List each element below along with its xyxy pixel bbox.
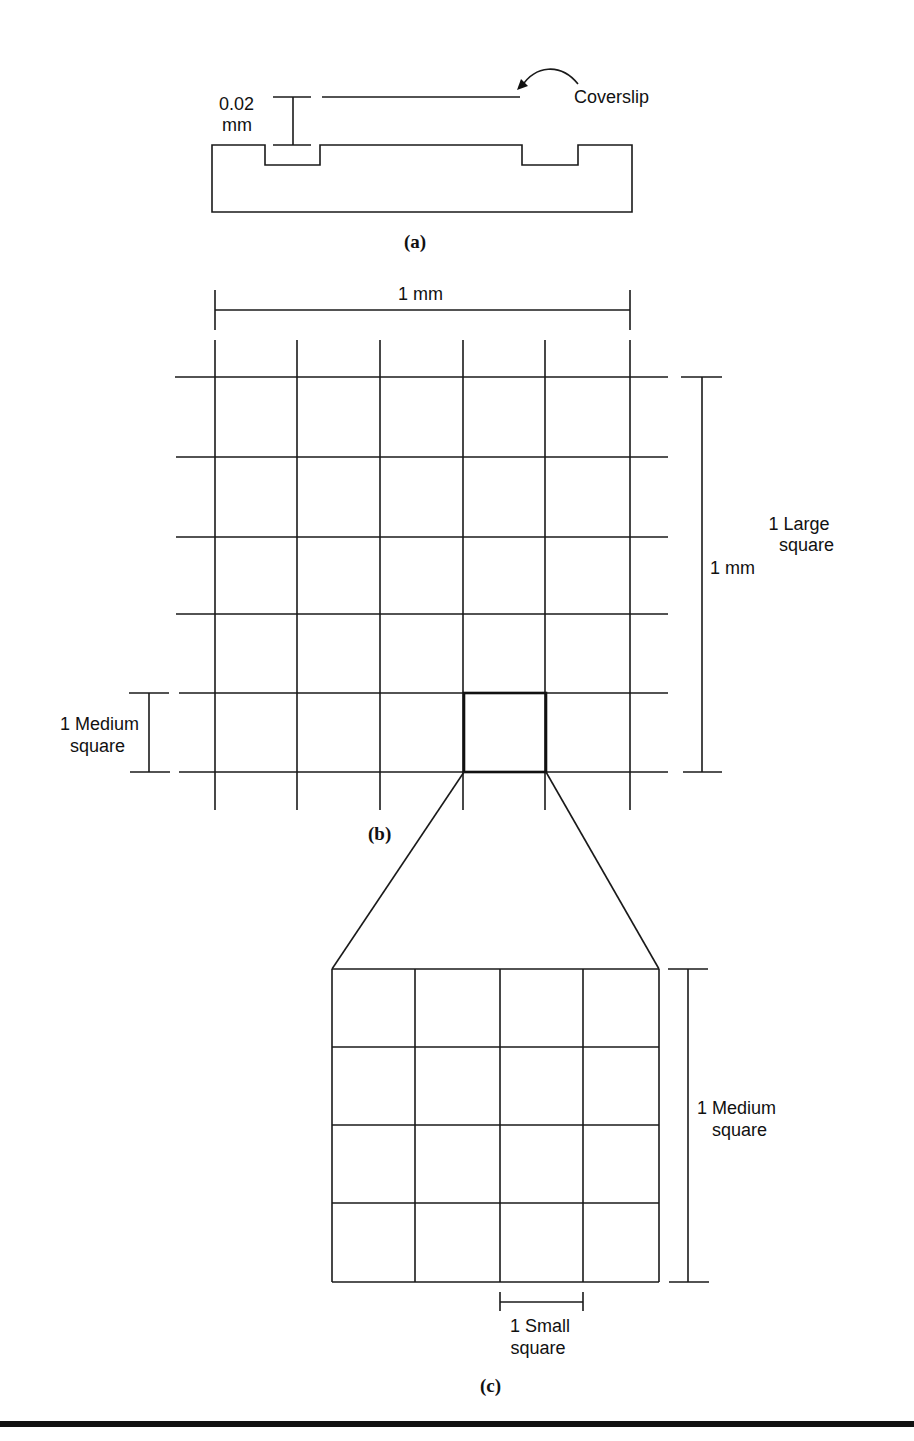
c-medium-square-label-1: 1 Medium [697, 1098, 776, 1118]
panel-b-large-square: 1 mm 1 mm 1 Large square [60, 284, 834, 845]
coverslip-label: Coverslip [574, 87, 649, 107]
hemocytometer-diagram: 0.02 mm Coverslip (a) 1 mm [0, 0, 914, 1441]
grid-b-vertical-lines [215, 340, 630, 810]
large-square-label-2: square [779, 535, 834, 555]
zoom-connector-lines [332, 772, 659, 969]
depth-unit: mm [222, 115, 252, 135]
panel-b-label: (b) [368, 823, 391, 845]
width-dim-label: 1 mm [398, 284, 443, 304]
height-dim-label: 1 mm [710, 558, 755, 578]
coverslip-arrow-icon [522, 69, 578, 86]
medium-square-label-1: 1 Medium [60, 714, 139, 734]
grid-b-horizontal-lines [175, 377, 668, 772]
large-square-label-1: 1 Large [768, 514, 829, 534]
caption-divider [0, 1421, 914, 1427]
small-square-label-2: square [510, 1338, 565, 1358]
grid-c-horizontal-lines [332, 969, 659, 1282]
depth-value: 0.02 [219, 94, 254, 114]
panel-a-label: (a) [404, 231, 426, 253]
chamber-body [212, 145, 632, 212]
panel-c-medium-square: 1 Medium square 1 Small square (c) [332, 969, 776, 1397]
panel-a-side-view: 0.02 mm Coverslip (a) [212, 69, 649, 253]
highlighted-medium-square [464, 693, 546, 772]
small-square-label-1: 1 Small [510, 1316, 570, 1336]
panel-c-label: (c) [480, 1375, 501, 1397]
c-medium-square-label-2: square [712, 1120, 767, 1140]
medium-square-label-2: square [70, 736, 125, 756]
